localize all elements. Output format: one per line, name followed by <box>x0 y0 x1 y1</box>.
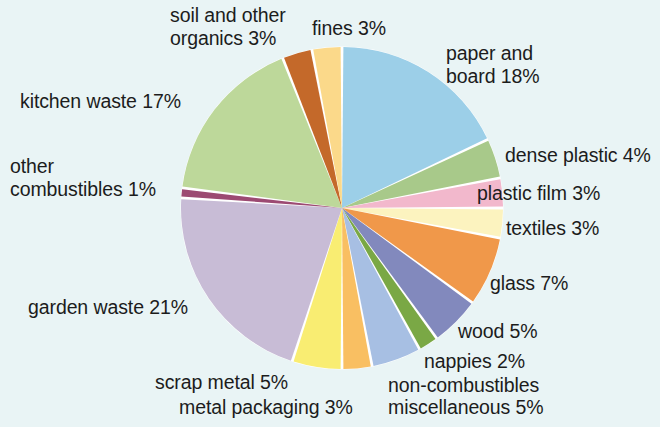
label-paper-and-board-line1: paper and <box>446 42 533 64</box>
label-soil-and-other-organics: soil and otherorganics 3% <box>170 4 286 50</box>
label-glass: glass 7% <box>490 272 568 295</box>
label-other-combustibles: othercombustibles 1% <box>10 155 156 201</box>
label-scrap-metal: scrap metal 5% <box>155 371 288 394</box>
label-soil-and-other-organics-line1: soil and other <box>170 4 286 26</box>
label-garden-waste: garden waste 21% <box>28 296 188 319</box>
label-other-combustibles-line1: other <box>10 155 54 177</box>
label-kitchen-waste: kitchen waste 17% <box>20 90 181 113</box>
label-soil-and-other-organics-line2: organics 3% <box>170 27 276 49</box>
label-textiles: textiles 3% <box>506 217 599 240</box>
label-paper-and-board-line2: board 18% <box>446 65 539 87</box>
label-fines: fines 3% <box>312 17 386 40</box>
label-dense-plastic: dense plastic 4% <box>505 144 651 167</box>
pie-chart-svg <box>0 0 660 427</box>
label-other-combustibles-line2: combustibles 1% <box>10 178 156 200</box>
label-non-combustibles-miscellaneous-line1: non-combustibles <box>388 374 539 397</box>
label-metal-packaging: metal packaging 3% <box>179 396 353 419</box>
label-paper-and-board: paper andboard 18% <box>446 42 539 88</box>
label-wood: wood 5% <box>458 320 538 343</box>
label-nappies: nappies 2% <box>424 350 525 373</box>
label-plastic-film: plastic film 3% <box>477 182 600 205</box>
pie-chart-figure: soil and otherorganics 3% fines 3% paper… <box>0 0 660 427</box>
label-non-combustibles-miscellaneous-line2: miscellaneous 5% <box>388 396 544 419</box>
pie-slice-group <box>181 47 504 370</box>
